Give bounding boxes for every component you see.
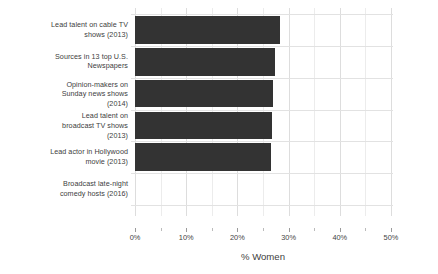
x-tick: [237, 228, 238, 232]
x-tick: [186, 228, 187, 232]
x-tick: [289, 228, 290, 232]
x-tick-label: 30%: [281, 233, 296, 242]
category-label: Lead actor in Hollywood movie (2013): [0, 148, 128, 167]
x-tick: [391, 228, 392, 232]
x-tick: [340, 228, 341, 232]
plot-bars: [135, 14, 391, 205]
x-tick: [135, 228, 136, 232]
bar: [135, 48, 275, 76]
x-tick-minor: [263, 228, 264, 231]
x-tick-minor: [212, 228, 213, 231]
category-label: Lead talent on broadcast TV shows (2013): [0, 111, 128, 140]
x-axis-title: % Women: [135, 251, 391, 262]
bar: [135, 143, 271, 171]
bar-chart: Lead talent on cable TV shows (2013)Sour…: [0, 0, 438, 274]
bar: [135, 80, 273, 108]
category-label: Lead talent on cable TV shows (2013): [0, 20, 128, 39]
x-tick-label: 0%: [130, 233, 141, 242]
gridline-horizontal: [131, 205, 393, 206]
x-tick-minor: [314, 228, 315, 231]
gridline-vertical: [391, 8, 392, 216]
category-axis-labels: Lead talent on cable TV shows (2013)Sour…: [0, 14, 128, 205]
bar: [135, 112, 272, 140]
x-tick-label: 10%: [179, 233, 194, 242]
x-tick-label: 50%: [384, 233, 399, 242]
x-tick-minor: [161, 228, 162, 231]
x-tick-label: 20%: [230, 233, 245, 242]
x-tick-minor: [365, 228, 366, 231]
category-label: Sources in 13 top U.S. Newspapers: [0, 52, 128, 71]
category-label: Broadcast late-night comedy hosts (2016): [0, 179, 128, 198]
x-axis: 0%10%20%30%40%50%: [135, 228, 391, 248]
category-label: Opinion-makers on Sunday news shows (201…: [0, 79, 128, 108]
x-tick-label: 40%: [332, 233, 347, 242]
bar: [135, 16, 280, 44]
